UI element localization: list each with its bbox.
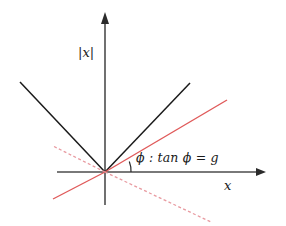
angle-annotation-label: ϕ : tan ϕ = g	[136, 152, 219, 165]
x-axis-label: x	[224, 179, 231, 192]
axes-group	[57, 12, 266, 205]
y-axis-arrowhead	[101, 12, 109, 24]
figure-container: |x| x ϕ : tan ϕ = g	[0, 0, 286, 226]
dashed-upper-left-line	[53, 146, 105, 172]
abs-value-plot	[0, 0, 286, 226]
y-axis-label: |x|	[78, 46, 94, 59]
abs-left-branch-line	[20, 82, 105, 172]
slope-g-negative-line	[53, 172, 105, 199]
angle-arc-icon	[129, 162, 131, 173]
dashed-lower-right-line	[105, 172, 211, 222]
x-axis-arrowhead	[256, 168, 266, 176]
